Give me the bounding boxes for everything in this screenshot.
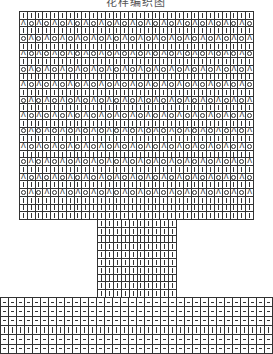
purl-symbol-icon bbox=[145, 345, 153, 354]
decrease-symbol-icon: Λ bbox=[246, 35, 254, 43]
knit-symbol-icon bbox=[168, 120, 176, 128]
knit-symbol-icon bbox=[65, 326, 73, 335]
decrease-symbol-icon: Λ bbox=[129, 20, 137, 28]
purl-symbol-icon bbox=[89, 298, 97, 307]
knit-symbol-icon bbox=[238, 120, 246, 128]
knit-symbol-icon bbox=[161, 243, 169, 251]
purl-symbol-icon bbox=[49, 335, 57, 344]
purl-symbol-icon bbox=[105, 345, 113, 354]
decrease-symbol-icon: Λ bbox=[223, 51, 231, 59]
purl-symbol-icon bbox=[209, 307, 217, 316]
yarn-over-symbol-icon bbox=[90, 112, 98, 120]
knit-symbol-icon bbox=[238, 151, 246, 159]
knit-symbol-icon bbox=[145, 89, 153, 97]
knit-symbol-icon bbox=[161, 267, 169, 275]
purl-symbol-icon bbox=[121, 317, 129, 326]
decrease-symbol-icon: Λ bbox=[238, 112, 246, 120]
purl-symbol-icon bbox=[257, 298, 265, 307]
knit-symbol-icon bbox=[199, 166, 207, 174]
knit-symbol-icon bbox=[160, 27, 168, 35]
knit-symbol-icon bbox=[51, 205, 59, 213]
yarn-over-symbol-icon bbox=[246, 20, 254, 28]
knit-symbol-icon bbox=[51, 58, 59, 66]
knit-symbol-icon bbox=[106, 251, 114, 259]
knit-symbol-icon bbox=[138, 236, 146, 244]
knit-symbol-icon bbox=[36, 12, 44, 20]
knit-symbol-icon bbox=[67, 151, 75, 159]
knit-symbol-icon bbox=[169, 243, 177, 251]
yarn-over-symbol-icon bbox=[192, 66, 200, 74]
knit-symbol-icon bbox=[207, 151, 215, 159]
purl-symbol-icon bbox=[193, 345, 201, 354]
purl-symbol-icon bbox=[97, 307, 105, 316]
knit-symbol-icon bbox=[145, 120, 153, 128]
purl-symbol-icon bbox=[201, 298, 209, 307]
knit-symbol-icon bbox=[82, 27, 90, 35]
knit-symbol-icon bbox=[25, 326, 33, 335]
yarn-over-symbol-icon bbox=[36, 189, 44, 197]
yarn-over-symbol-icon bbox=[160, 128, 168, 136]
purl-symbol-icon bbox=[65, 307, 73, 316]
knit-symbol-icon bbox=[28, 166, 36, 174]
decrease-symbol-icon: Λ bbox=[160, 143, 168, 151]
yarn-over-symbol-icon bbox=[199, 112, 207, 120]
knit-symbol-icon bbox=[36, 43, 44, 51]
decrease-symbol-icon: Λ bbox=[90, 158, 98, 166]
yarn-over-symbol-icon bbox=[106, 81, 114, 89]
decrease-symbol-icon: Λ bbox=[192, 174, 200, 182]
decrease-symbol-icon: Λ bbox=[106, 158, 114, 166]
knit-symbol-icon bbox=[51, 212, 59, 220]
knit-symbol-icon bbox=[51, 27, 59, 35]
purl-symbol-icon bbox=[113, 335, 121, 344]
yarn-over-symbol-icon bbox=[215, 81, 223, 89]
knit-symbol-icon bbox=[59, 43, 67, 51]
decrease-symbol-icon: Λ bbox=[106, 35, 114, 43]
knit-symbol-icon bbox=[36, 212, 44, 220]
yarn-over-symbol-icon bbox=[199, 174, 207, 182]
purl-symbol-icon bbox=[41, 317, 49, 326]
knit-symbol-icon bbox=[168, 205, 176, 213]
yarn-over-symbol-icon bbox=[215, 143, 223, 151]
knit-symbol-icon bbox=[89, 326, 97, 335]
knit-symbol-icon bbox=[106, 104, 114, 112]
knit-symbol-icon bbox=[106, 275, 114, 283]
knit-symbol-icon bbox=[160, 181, 168, 189]
knit-symbol-icon bbox=[153, 74, 161, 82]
purl-symbol-icon bbox=[209, 298, 217, 307]
knit-symbol-icon bbox=[145, 197, 153, 205]
knit-symbol-icon bbox=[145, 236, 153, 244]
knit-symbol-icon bbox=[67, 166, 75, 174]
knit-symbol-icon bbox=[51, 197, 59, 205]
yarn-over-symbol-icon bbox=[20, 35, 28, 43]
knit-symbol-icon bbox=[223, 197, 231, 205]
yarn-over-symbol-icon bbox=[192, 97, 200, 105]
yarn-over-symbol-icon bbox=[43, 174, 51, 182]
yarn-over-symbol-icon bbox=[121, 81, 129, 89]
purl-symbol-icon bbox=[265, 345, 273, 354]
yarn-over-symbol-icon bbox=[238, 128, 246, 136]
yarn-over-symbol-icon bbox=[106, 20, 114, 28]
knit-symbol-icon bbox=[225, 326, 233, 335]
decrease-symbol-icon: Λ bbox=[207, 20, 215, 28]
yarn-over-symbol-icon bbox=[67, 35, 75, 43]
decrease-symbol-icon: Λ bbox=[28, 128, 36, 136]
knit-symbol-icon bbox=[223, 181, 231, 189]
knit-symbol-icon bbox=[114, 228, 122, 236]
yarn-over-symbol-icon bbox=[160, 97, 168, 105]
knit-symbol-icon bbox=[129, 181, 137, 189]
purl-symbol-icon bbox=[209, 345, 217, 354]
knit-symbol-icon bbox=[137, 12, 145, 20]
knit-symbol-icon bbox=[82, 58, 90, 66]
decrease-symbol-icon: Λ bbox=[90, 128, 98, 136]
yarn-over-symbol-icon bbox=[145, 158, 153, 166]
knit-symbol-icon bbox=[121, 151, 129, 159]
purl-symbol-icon bbox=[241, 335, 249, 344]
knit-symbol-icon bbox=[33, 326, 41, 335]
decrease-symbol-icon: Λ bbox=[82, 81, 90, 89]
decrease-symbol-icon: Λ bbox=[28, 97, 36, 105]
knit-symbol-icon bbox=[238, 12, 246, 20]
knit-symbol-icon bbox=[145, 74, 153, 82]
knit-symbol-icon bbox=[28, 151, 36, 159]
knit-symbol-icon bbox=[231, 135, 239, 143]
decrease-symbol-icon: Λ bbox=[82, 20, 90, 28]
